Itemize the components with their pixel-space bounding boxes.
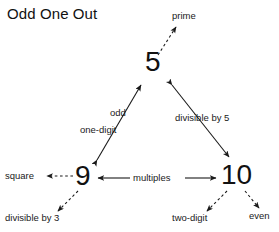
node-5: 5 <box>145 48 161 76</box>
diagram-edges <box>0 0 279 232</box>
attr-edge-two-digit <box>207 191 227 211</box>
attr-edge-even <box>245 191 259 208</box>
attribute-label-prime: prime <box>172 11 196 21</box>
attr-edge-divisible-by-3 <box>58 191 78 211</box>
attribute-label-even: even <box>249 211 270 221</box>
attribute-label-square: square <box>5 171 34 181</box>
node-9: 9 <box>75 162 91 190</box>
node-10: 10 <box>221 161 252 189</box>
edge-label-one-digit: one-digit <box>80 125 116 135</box>
attribute-label-divisible-by-3: divisible by 3 <box>5 213 59 223</box>
diagram-canvas: Odd One Out 5 9 10 odd one-digit divisib… <box>0 0 279 232</box>
edge-label-divisible-by-5: divisible by 5 <box>175 113 229 123</box>
edge-nine-five <box>97 85 141 160</box>
attr-edge-prime <box>158 27 176 55</box>
edge-label-odd: odd <box>110 108 126 118</box>
page-title: Odd One Out <box>7 6 97 21</box>
attribute-label-two-digit: two-digit <box>172 213 207 223</box>
edge-label-multiples: multiples <box>133 173 171 183</box>
